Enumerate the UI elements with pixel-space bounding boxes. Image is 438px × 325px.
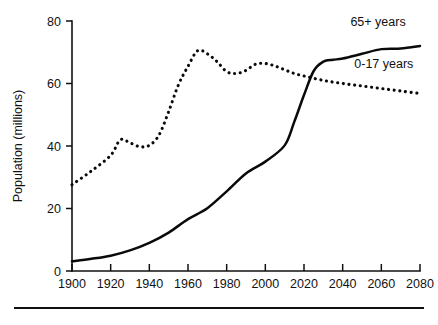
x-ticks: 1900192019401960198020002020204020602080 — [58, 264, 434, 291]
x-tick-label: 1900 — [58, 277, 86, 291]
series-label-65-plus-years: 65+ years — [350, 15, 405, 29]
series-labels-group: 65+ years 0-17 years — [350, 15, 413, 71]
y-axis-group: 020406080 Population (millions) — [11, 15, 72, 279]
y-tick-label: 20 — [47, 202, 61, 216]
series-group — [72, 46, 420, 261]
x-axis-group: 1900192019401960198020002020204020602080 — [58, 264, 434, 291]
series-line-65-plus-years — [72, 46, 420, 261]
chart-canvas: 020406080 Population (millions) 19001920… — [0, 0, 438, 325]
x-tick-label: 2040 — [329, 277, 357, 291]
y-ticks: 020406080 — [47, 15, 72, 279]
y-axis-title: Population (millions) — [11, 90, 25, 203]
y-tick-label: 80 — [47, 15, 61, 29]
x-tick-label: 1920 — [97, 277, 125, 291]
x-tick-label: 1960 — [174, 277, 202, 291]
series-label-0-17-years: 0-17 years — [354, 57, 413, 71]
x-tick-label: 2060 — [367, 277, 395, 291]
population-projection-chart: 020406080 Population (millions) 19001920… — [0, 0, 438, 325]
x-tick-label: 2080 — [406, 277, 434, 291]
y-tick-label: 40 — [47, 140, 61, 154]
x-tick-label: 1940 — [135, 277, 163, 291]
y-tick-label: 60 — [47, 77, 61, 91]
x-tick-label: 2020 — [290, 277, 318, 291]
x-tick-label: 2000 — [251, 277, 279, 291]
x-tick-label: 1980 — [213, 277, 241, 291]
